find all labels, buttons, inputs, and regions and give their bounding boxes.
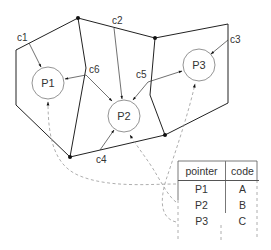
vertex-dot — [68, 155, 72, 159]
table-cell-code: C — [226, 213, 260, 229]
dashed-link-p2 — [130, 135, 176, 202]
table-cell-code: A — [226, 181, 260, 198]
arrow-c2-p2 — [114, 28, 122, 99]
arrow-c5-p2 — [133, 82, 148, 100]
table-row: P2 B — [178, 197, 259, 213]
vertex-dot — [163, 133, 167, 137]
partition-line-right — [150, 38, 165, 135]
table-cell-pointer: P2 — [178, 197, 226, 213]
pointer-code-table: pointer code P1 A P2 B P3 C — [178, 161, 259, 229]
cell-label-c6: c6 — [89, 65, 100, 75]
cell-label-c3: c3 — [230, 35, 241, 45]
cell-label-c1: c1 — [17, 33, 28, 43]
arrow-c5-p3 — [148, 71, 182, 82]
table-cell-pointer: P3 — [178, 213, 226, 229]
table-header-code: code — [226, 161, 260, 181]
cell-label-c4: c4 — [96, 155, 107, 165]
vertex-dot — [76, 16, 80, 20]
table-header-pointer: pointer — [178, 161, 226, 181]
cell-label-c5: c5 — [136, 70, 147, 80]
node-label-p1: P1 — [33, 78, 63, 89]
table-cell-code: B — [226, 197, 260, 213]
arrow-c6-p2 — [86, 75, 112, 101]
vertex-dot — [153, 36, 157, 40]
arrow-c1-p1 — [29, 43, 41, 67]
table-cell-pointer: P1 — [178, 181, 226, 198]
table-row: P3 C — [178, 213, 259, 229]
cell-label-c2: c2 — [112, 16, 123, 26]
table-row: P1 A — [178, 181, 259, 198]
arrow-c6-p1 — [65, 75, 86, 79]
node-label-p3: P3 — [184, 60, 214, 71]
arrow-c3-p3 — [211, 40, 228, 54]
partition-line-left — [70, 18, 86, 157]
node-label-p2: P2 — [109, 111, 139, 122]
